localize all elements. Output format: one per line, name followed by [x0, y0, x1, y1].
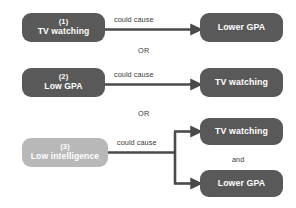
edge-label-row-3: could cause [117, 138, 157, 147]
node-row-1-effect-1-label: Lower GPA [218, 23, 266, 33]
node-row-2-effect-1-label: TV watching [215, 78, 268, 88]
and-joiner-row-3: and [232, 155, 244, 164]
edge-label-row-1: could cause [114, 15, 154, 24]
node-row-2-effect-1[interactable]: TV watching [200, 68, 283, 97]
node-row-1-cause-label: TV watching [38, 27, 90, 37]
or-separator-1: OR [138, 46, 150, 55]
node-row-3-cause-label: Low intelligence [31, 152, 99, 162]
node-row-3-cause[interactable]: (3) Low intelligence [22, 138, 108, 167]
edge-label-row-2: could cause [114, 70, 154, 79]
or-separator-2: OR [138, 109, 150, 118]
node-row-3-effect-1-label: TV watching [215, 127, 268, 137]
node-row-3-effect-1[interactable]: TV watching [200, 118, 283, 145]
node-row-3-effect-2-label: Lower GPA [218, 179, 266, 189]
node-row-1-effect-1[interactable]: Lower GPA [200, 13, 283, 42]
node-row-1-cause[interactable]: (1) TV watching [22, 13, 105, 42]
node-row-3-effect-2[interactable]: Lower GPA [200, 170, 283, 197]
node-row-2-cause[interactable]: (2) Low GPA [22, 68, 105, 97]
causal-diagram: (1) TV watching could cause Lower GPA OR… [0, 0, 296, 208]
node-row-2-cause-label: Low GPA [44, 82, 82, 92]
